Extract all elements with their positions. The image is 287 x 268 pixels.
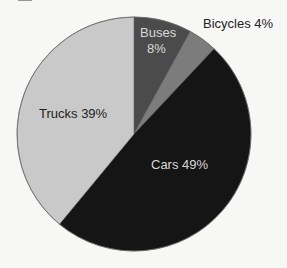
pie-chart (0, 0, 287, 268)
pie-slices (17, 17, 251, 251)
label-buses-name: Buses (140, 25, 176, 40)
label-buses-pct: 8% (147, 41, 166, 56)
label-trucks: Trucks 39% (39, 106, 107, 121)
label-bicycles: Bicycles 4% (203, 16, 273, 31)
label-cars: Cars 49% (151, 157, 208, 172)
